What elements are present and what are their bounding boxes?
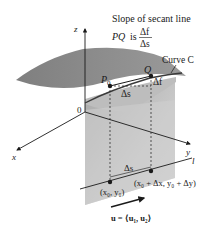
delta-s-lower-label: Δs xyxy=(124,163,134,173)
z-axis-label: z xyxy=(73,24,78,34)
x-axis-label: x xyxy=(11,152,16,162)
shifted-point-label: (x₀ + Δx, y₀ + Δy) xyxy=(134,178,196,188)
fraction-denominator: Δs xyxy=(140,39,150,49)
title-pq: PQ xyxy=(111,31,126,42)
delta-s-upper-label: Δs xyxy=(121,89,131,99)
point-base xyxy=(108,180,112,184)
origin-label: 0 xyxy=(77,105,82,115)
q-label: Q xyxy=(144,64,152,75)
title-line1: Slope of secant line xyxy=(112,13,191,24)
delta-f-label: Δf xyxy=(153,77,163,87)
x-axis xyxy=(17,112,85,150)
line-l-label: l xyxy=(192,156,195,166)
directional-derivative-diagram: Slope of secant line PQ is Δf Δs z x y 0… xyxy=(0,0,210,225)
direction-vector-label: u = ⟨u₁, u₂⟩ xyxy=(111,213,151,223)
base-point-label: (x₀, y₀) xyxy=(100,187,125,197)
point-shifted xyxy=(149,169,153,173)
direction-vector-arrow xyxy=(111,198,144,207)
fraction-numerator: Δf xyxy=(140,27,150,37)
title-is: is xyxy=(130,31,137,42)
curve-c-label: Curve C xyxy=(162,55,194,65)
y-axis-label: y xyxy=(185,147,190,157)
